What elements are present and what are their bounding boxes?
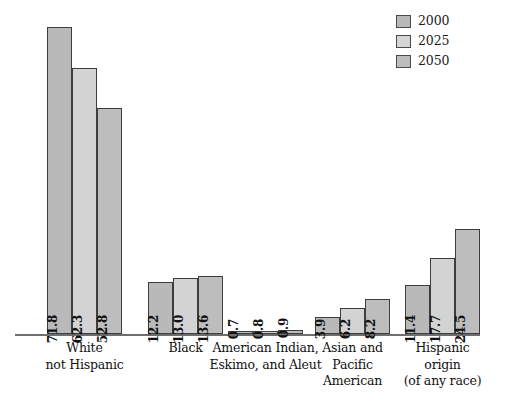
category-label-line: not Hispanic	[17, 357, 152, 374]
bar-group-white-not-hispanic: 71.8 62.3 52.8 White not Hispanic	[47, 0, 122, 403]
bar-value-black-2000: 12.2	[147, 315, 161, 343]
bar-american-indian-eskimo-aleut-2025: 0.8	[253, 331, 278, 334]
bars-white-not-hispanic: 71.8 62.3 52.8	[47, 0, 122, 334]
bar-value-hispanic-origin-2025: 17.7	[429, 315, 443, 343]
plot-area: 71.8 62.3 52.8 White not Hispanic 12.2	[0, 0, 509, 403]
bars-asian-pacific-american: 3.9 6.2 8.2	[315, 0, 390, 334]
bars-american-indian-eskimo-aleut: 0.7 0.8 0.9	[228, 0, 303, 334]
bars-hispanic-origin: 11.4 17.7 24.5	[405, 0, 480, 334]
category-label-hispanic-origin: Hispanic origin (of any race)	[375, 340, 509, 390]
bar-value-white-not-hispanic-2000: 71.8	[46, 315, 60, 343]
bar-asian-pacific-american-2000: 3.9	[315, 317, 340, 334]
bar-group-hispanic-origin: 11.4 17.7 24.5 Hispanic origin (of any r…	[405, 0, 480, 403]
bar-value-asian-pacific-american-2025: 6.2	[339, 319, 353, 339]
bar-value-american-indian-eskimo-aleut-2050: 0.9	[277, 318, 291, 338]
bar-black-2000: 12.2	[148, 282, 173, 334]
bar-white-not-hispanic-2050: 52.8	[97, 108, 122, 334]
bar-value-white-not-hispanic-2050: 52.8	[96, 315, 110, 343]
bar-black-2025: 13.0	[173, 278, 198, 334]
category-label-line: (of any race)	[375, 373, 509, 390]
bar-asian-pacific-american-2025: 6.2	[340, 308, 365, 335]
bar-value-hispanic-origin-2000: 11.4	[404, 315, 418, 343]
bar-asian-pacific-american-2050: 8.2	[365, 299, 390, 334]
bars-black: 12.2 13.0 13.6	[148, 0, 223, 334]
bar-value-hispanic-origin-2050: 24.5	[454, 315, 468, 343]
category-label-line: origin	[375, 357, 509, 374]
bar-black-2050: 13.6	[198, 276, 223, 334]
bar-hispanic-origin-2000: 11.4	[405, 285, 430, 334]
bar-value-asian-pacific-american-2000: 3.9	[314, 319, 328, 339]
category-label-line: Hispanic	[375, 340, 509, 357]
bar-hispanic-origin-2025: 17.7	[430, 258, 455, 334]
bar-value-asian-pacific-american-2050: 8.2	[364, 319, 378, 339]
bar-american-indian-eskimo-aleut-2000: 0.7	[228, 331, 253, 334]
bar-white-not-hispanic-2000: 71.8	[47, 27, 72, 334]
bar-american-indian-eskimo-aleut-2050: 0.9	[278, 330, 303, 334]
bar-value-american-indian-eskimo-aleut-2000: 0.7	[227, 319, 241, 339]
bar-chart: 2000 2025 2050 71.8 62.3 52.8	[0, 0, 509, 403]
bar-white-not-hispanic-2025: 62.3	[72, 68, 97, 334]
bar-value-black-2050: 13.6	[197, 315, 211, 343]
bar-hispanic-origin-2050: 24.5	[455, 229, 480, 334]
bar-value-white-not-hispanic-2025: 62.3	[71, 315, 85, 343]
bar-value-black-2025: 13.0	[172, 315, 186, 343]
bar-value-american-indian-eskimo-aleut-2025: 0.8	[252, 318, 266, 338]
